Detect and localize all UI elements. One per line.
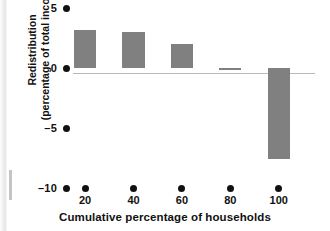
x-axis-tick-label: 80 <box>224 194 236 206</box>
x-axis-tick-marker <box>227 185 234 192</box>
bar-chart-figure: 50–5–10 Redistribution (percentage of to… <box>0 0 330 231</box>
x-axis-tick-marker <box>82 185 89 192</box>
x-axis-tick-label: 20 <box>79 194 91 206</box>
x-axis: 20406080100 <box>0 0 330 231</box>
x-axis-tick-label: 40 <box>127 194 139 206</box>
x-axis-title: Cumulative percentage of households <box>0 211 330 223</box>
x-axis-tick-marker <box>275 185 282 192</box>
x-axis-tick-label: 60 <box>176 194 188 206</box>
x-axis-tick-label: 100 <box>270 194 288 206</box>
x-axis-tick-marker <box>178 185 185 192</box>
x-axis-tick-marker <box>130 185 137 192</box>
